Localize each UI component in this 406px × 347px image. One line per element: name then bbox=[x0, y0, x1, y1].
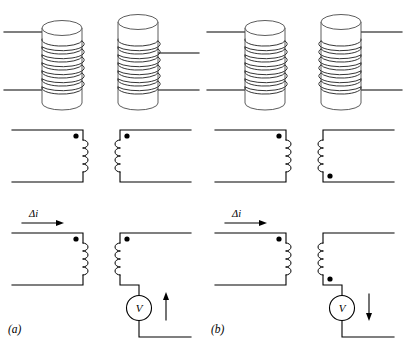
panel-a-right-solenoid bbox=[118, 15, 199, 111]
panel-a-bot-left-inductor bbox=[83, 243, 88, 275]
panel-b-bot-right-circuit: V bbox=[318, 233, 394, 337]
panel-a-current-arrow bbox=[22, 220, 64, 226]
panel-b-mid-right-circuit bbox=[318, 130, 394, 182]
panel-a-mid-right-polarity-dot bbox=[124, 133, 129, 138]
panel-b-left-cylinder-top bbox=[245, 21, 285, 36]
figure-container: Δi bbox=[0, 0, 406, 347]
panel-b-bot-right-meter-lead-top bbox=[323, 275, 342, 296]
panel-b-mid-left-bottom-wire bbox=[215, 172, 286, 182]
panel-b-mid-left-circuit bbox=[215, 130, 291, 182]
figure-canvas: Δi bbox=[0, 0, 406, 347]
panel-a-mid-left-polarity-dot bbox=[73, 133, 78, 138]
panel-a-left-cylinder-body bbox=[42, 28, 82, 110]
panel-b-mid-left-top-wire bbox=[215, 130, 286, 140]
panel-a-voltmeter-arrow-up bbox=[163, 292, 169, 320]
panel-b-right-cylinder-body bbox=[321, 22, 361, 110]
panel-a-bot-right-meter-lead-bottom bbox=[139, 320, 191, 337]
panel-a-mid-right-bottom-wire bbox=[120, 172, 191, 182]
panel-b-bot-left-bottom-wire bbox=[215, 275, 286, 285]
panel-b-mid-left-inductor bbox=[286, 140, 291, 172]
panel-a-mid-left-inductor bbox=[83, 140, 88, 172]
panel-a-mid-right-circuit bbox=[115, 130, 191, 182]
panel-a-bot-left-top-wire bbox=[12, 233, 83, 243]
panel-a-right-cylinder-body bbox=[118, 22, 158, 110]
panel-a-left-cylinder-top bbox=[42, 21, 82, 36]
panel-a-bot-right-meter-lead-top bbox=[120, 275, 139, 296]
panel-b-mid-right-top-wire bbox=[323, 130, 394, 140]
panel-b-right-cylinder-top bbox=[321, 15, 361, 30]
panel-b-schematic-dots bbox=[215, 130, 394, 182]
panel-a-current-label: Δi bbox=[28, 208, 38, 219]
panel-a-bot-left-polarity-dot bbox=[73, 236, 78, 241]
panel-b-mid-left-polarity-dot bbox=[276, 133, 281, 138]
panel-b-left-solenoid bbox=[207, 21, 287, 111]
panel-b-bot-right-inductor bbox=[318, 243, 323, 275]
panel-a-bot-left-bottom-wire bbox=[12, 275, 83, 285]
panel-b-bot-right-polarity-dot bbox=[327, 276, 332, 281]
panel-b-mid-right-bottom-wire bbox=[323, 172, 394, 182]
panel-a-label: (a) bbox=[8, 323, 22, 336]
panel-b-bot-left-inductor bbox=[286, 243, 291, 275]
panel-b-bot-right-top-wire bbox=[323, 233, 394, 243]
panel-a-mid-left-bottom-wire bbox=[12, 172, 83, 182]
panel-b-right-solenoid bbox=[319, 15, 402, 111]
panel-a-bot-right-top-wire bbox=[120, 233, 191, 243]
panel-b-mid-right-polarity-dot bbox=[327, 173, 332, 178]
panel-b-bot-left-top-wire bbox=[215, 233, 286, 243]
panel-a-mid-right-inductor bbox=[115, 140, 120, 172]
panel-a-pictorial-coils bbox=[4, 15, 199, 111]
panel-a-schematic-dots bbox=[12, 130, 191, 182]
panel-a-bot-right-circuit: V bbox=[115, 233, 191, 337]
panel-b-bot-left-polarity-dot bbox=[276, 236, 281, 241]
panel-a-mid-left-circuit bbox=[12, 130, 88, 182]
panel-a-bot-left-circuit bbox=[12, 233, 88, 285]
panel-b-bot-right-meter-lead-bottom bbox=[342, 320, 394, 337]
panel-b-left-cylinder-body bbox=[245, 28, 285, 110]
panel-a-schematic-meter: Δi bbox=[8, 208, 191, 337]
panel-a-mid-right-top-wire bbox=[120, 130, 191, 140]
panel-a-bot-right-inductor bbox=[115, 243, 120, 275]
panel-b-mid-right-inductor bbox=[318, 140, 323, 172]
panel-a-mid-left-top-wire bbox=[12, 130, 83, 140]
panel-b-voltmeter-arrow-down bbox=[366, 294, 372, 321]
panel-a-left-solenoid bbox=[4, 21, 84, 110]
panel-b-schematic-meter: Δi bbox=[211, 208, 394, 337]
panel-b-bot-left-circuit bbox=[215, 233, 291, 285]
panel-b-current-label: Δi bbox=[231, 208, 241, 219]
panel-b-pictorial-coils bbox=[207, 15, 402, 111]
panel-a-right-cylinder-top bbox=[118, 15, 158, 30]
panel-a-bot-right-polarity-dot bbox=[124, 236, 129, 241]
panel-b-label: (b) bbox=[211, 323, 225, 336]
panel-b-current-arrow bbox=[225, 220, 267, 226]
